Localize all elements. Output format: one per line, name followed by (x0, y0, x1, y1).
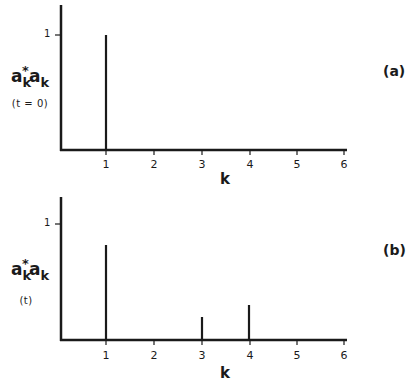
y-axis-condition: (t) (0, 295, 58, 306)
y-axis-condition: (t = 0) (2, 98, 58, 109)
x-tick-label: 4 (247, 158, 254, 171)
x-axis-label: k (220, 170, 230, 188)
panel-label: (a) (383, 63, 405, 79)
panel-a: 1 ak*ak (t = 0) 1 2 3 4 5 6 k (a) (0, 0, 409, 190)
x-tick-label: 3 (199, 349, 206, 362)
x-tick-label: 5 (294, 158, 301, 171)
x-tick-label: 3 (199, 158, 206, 171)
y-axis-label: ak*ak (t) (2, 255, 58, 306)
x-axis-label: k (220, 364, 230, 382)
x-tick-label: 2 (151, 349, 158, 362)
x-tick-label: 2 (151, 158, 158, 171)
x-tick-label: 6 (341, 349, 348, 362)
x-tick-label: 4 (247, 349, 254, 362)
x-tick-label: 1 (103, 349, 110, 362)
y-axis-label: ak*ak (t = 0) (2, 62, 58, 109)
x-tick-label: 6 (341, 158, 348, 171)
panel-b: 1 ak*ak (t) 1 2 3 4 5 6 k (b) (0, 190, 409, 390)
y-tick-label: 1 (44, 217, 50, 228)
panel-label: (b) (383, 242, 406, 258)
x-tick-label: 5 (294, 349, 301, 362)
x-tick-label: 1 (103, 158, 110, 171)
y-tick-label: 1 (44, 28, 50, 39)
